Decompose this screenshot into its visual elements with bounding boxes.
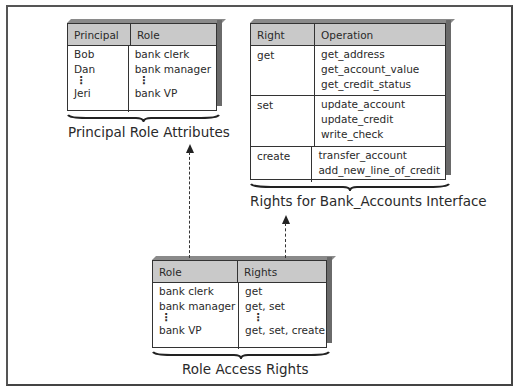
table-cell: bank VP [153, 322, 238, 337]
brace-icon [151, 350, 331, 358]
brace-icon [249, 182, 451, 190]
caption-role-access-rights: Role Access Rights [182, 361, 308, 377]
rights-column: get get, set ⋮ get, set, create [239, 283, 330, 349]
arrow-to-principal-role [186, 144, 194, 258]
brace-icon [66, 113, 221, 121]
caption-principal-role-attributes: Principal Role Attributes [68, 124, 230, 140]
ellipsis-vertical: ⋮ [239, 313, 330, 322]
table-cell: Jeri [68, 85, 128, 100]
table-header: Principal Role [68, 24, 216, 46]
ellipsis-vertical: ⋮ [129, 76, 216, 85]
table-cell: bank clerk [129, 46, 216, 61]
operation-cell: update_credit [315, 111, 410, 126]
dashed-line [285, 223, 286, 258]
operation-cell: get_credit_status [315, 76, 424, 91]
operation-cell: transfer_account [312, 147, 445, 162]
arrow-to-rights-interface [282, 215, 290, 258]
header-role: Role [131, 24, 165, 45]
arrowhead-icon [282, 215, 290, 224]
rights-group-create: create transfer_account add_new_line_of_… [251, 147, 445, 182]
operation-cell: get_address [315, 46, 424, 61]
role-rights-table: Role Rights bank clerk bank manager ⋮ ba… [152, 260, 327, 348]
header-role: Role [153, 261, 238, 282]
table-cell: Bob [68, 46, 128, 61]
header-right: Right [251, 24, 315, 45]
right-cell: set [251, 96, 315, 146]
rights-table: Right Operation get get_address get_acco… [250, 23, 446, 180]
table-cell: bank VP [129, 85, 216, 100]
dashed-line [189, 152, 190, 258]
operation-cell: get_account_value [315, 61, 424, 76]
arrowhead-icon [186, 144, 194, 153]
table-cell: get, set, create [239, 322, 330, 337]
ellipsis-vertical: ⋮ [153, 313, 238, 322]
rights-group-set: set update_account update_credit write_c… [251, 96, 445, 147]
role-column: bank clerk bank manager ⋮ bank VP [129, 46, 216, 112]
caption-rights-interface: Rights for Bank_Accounts Interface [250, 193, 487, 209]
table-cell: get [239, 283, 330, 298]
header-rights: Rights [238, 261, 282, 282]
operation-cell: write_check [315, 126, 410, 141]
header-principal: Principal [68, 24, 131, 45]
operation-cell: add_new_line_of_credit [312, 162, 445, 177]
table-header: Role Rights [153, 261, 326, 283]
role-column: bank clerk bank manager ⋮ bank VP [153, 283, 239, 349]
right-cell: get [251, 46, 315, 95]
table-header: Right Operation [251, 24, 445, 46]
operation-cell: update_account [315, 96, 410, 111]
table-cell: bank clerk [153, 283, 238, 298]
principal-column: Bob Dan ⋮ Jeri [68, 46, 129, 112]
right-cell: create [251, 147, 312, 182]
ellipsis-vertical: ⋮ [68, 76, 128, 85]
header-operation: Operation [315, 24, 378, 45]
rights-group-get: get get_address get_account_value get_cr… [251, 46, 445, 96]
principal-role-table: Principal Role Bob Dan ⋮ Jeri bank clerk… [67, 23, 217, 111]
